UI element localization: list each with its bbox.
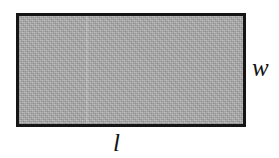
rectangle-shape: [16, 13, 246, 127]
rectangle-dimension-diagram: w l: [0, 0, 279, 158]
width-label: w: [252, 55, 269, 80]
length-label: l: [113, 130, 120, 155]
